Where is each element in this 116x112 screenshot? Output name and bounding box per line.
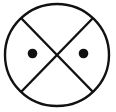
right-dot — [79, 49, 89, 59]
diagram-svg — [0, 0, 116, 112]
left-dot — [28, 49, 38, 59]
figure-canvas — [0, 0, 116, 112]
